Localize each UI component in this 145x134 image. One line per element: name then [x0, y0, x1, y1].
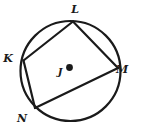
label-n: N: [16, 112, 28, 125]
inscribed-quadrilateral-diagram: J K L M N: [0, 0, 145, 134]
label-l: L: [70, 3, 79, 16]
geometry-figure: J K L M N: [0, 0, 145, 134]
label-k: K: [2, 52, 13, 65]
label-m: M: [115, 63, 129, 76]
center-point-dot: [66, 64, 73, 71]
